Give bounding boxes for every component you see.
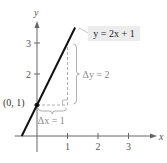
- equation-leader-line: [79, 28, 88, 33]
- equation-label: y = 2x + 1: [93, 28, 134, 39]
- y-axis-arrow-icon: [35, 21, 40, 28]
- point-label: (0, 1): [3, 97, 25, 109]
- y-axis-label: y: [33, 7, 39, 18]
- delta-x-brace: [38, 108, 67, 114]
- x-tick-label: 1: [65, 141, 70, 152]
- labels: Δx = 1Δy = 2(0, 1)y = 2x + 1: [3, 26, 140, 126]
- delta-x-label: Δx = 1: [38, 115, 65, 126]
- x-tick-label: 3: [126, 141, 131, 152]
- y-tick-label: 3: [26, 38, 31, 49]
- x-axis-arrow-icon: [150, 134, 157, 139]
- chart: xy12323 Δx = 1Δy = 2(0, 1)y = 2x + 1: [0, 0, 167, 163]
- delta-y-label: Δy = 2: [83, 69, 110, 80]
- delta-y-brace: [74, 44, 80, 104]
- guides: [37, 43, 80, 114]
- right-angle-marker: [63, 100, 68, 105]
- data-point: [35, 103, 40, 108]
- x-axis-label: x: [158, 131, 164, 142]
- y-tick-label: 2: [26, 69, 31, 80]
- x-tick-label: 2: [96, 141, 101, 152]
